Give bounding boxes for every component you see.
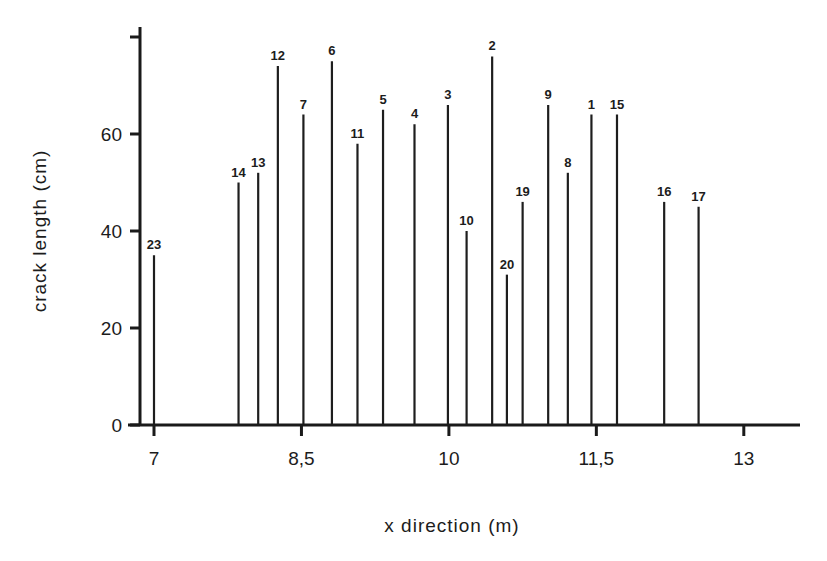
x-tick-label: 7 — [149, 448, 160, 469]
y-axis-title: crack length (cm) — [29, 150, 50, 313]
bars-group: 2314131276115431022019981151617 — [147, 38, 706, 425]
crack-bar-6: 6 — [328, 43, 335, 425]
y-tick-label: 20 — [101, 318, 122, 339]
crack-bar-label: 7 — [300, 97, 307, 112]
crack-bar-label: 2 — [489, 38, 496, 53]
y-tick-label: 60 — [101, 124, 122, 145]
x-tick-label: 10 — [438, 448, 459, 469]
y-tick-label: 0 — [111, 415, 122, 436]
crack-bar-2: 2 — [489, 38, 496, 425]
crack-bar-5: 5 — [379, 92, 386, 425]
y-ticks-group: 0204060 — [101, 37, 140, 436]
crack-bar-14: 14 — [231, 165, 246, 426]
crack-bar-label: 19 — [515, 184, 529, 199]
crack-bar-label: 9 — [545, 87, 552, 102]
y-tick-label: 40 — [101, 221, 122, 242]
crack-bar-label: 17 — [691, 189, 705, 204]
crack-bar-label: 1 — [588, 97, 595, 112]
crack-bar-label: 3 — [444, 87, 451, 102]
crack-bar-1: 1 — [588, 97, 595, 425]
crack-bar-label: 5 — [379, 92, 386, 107]
x-tick-label: 13 — [733, 448, 754, 469]
crack-bar-12: 12 — [271, 48, 285, 425]
crack-bar-11: 11 — [351, 126, 365, 425]
crack-length-chart: 2314131276115431022019981151617 0204060 … — [0, 0, 827, 561]
crack-bar-17: 17 — [691, 189, 705, 425]
crack-bar-label: 12 — [271, 48, 285, 63]
crack-bar-label: 20 — [500, 257, 514, 272]
crack-bar-label: 4 — [411, 106, 419, 121]
crack-bar-label: 23 — [147, 237, 161, 252]
crack-bar-label: 6 — [328, 43, 335, 58]
crack-bar-15: 15 — [610, 97, 624, 425]
crack-bar-9: 9 — [545, 87, 552, 425]
crack-bar-label: 13 — [251, 155, 265, 170]
x-ticks-group: 78,51011,513 — [149, 425, 755, 469]
crack-bar-label: 15 — [610, 97, 624, 112]
crack-bar-8: 8 — [564, 155, 571, 425]
crack-bar-label: 8 — [564, 155, 571, 170]
crack-bar-19: 19 — [515, 184, 529, 425]
crack-bar-7: 7 — [300, 97, 307, 425]
crack-bar-23: 23 — [147, 237, 161, 425]
crack-bar-13: 13 — [251, 155, 265, 425]
crack-bar-3: 3 — [444, 87, 451, 425]
crack-bar-16: 16 — [657, 184, 671, 425]
x-tick-label: 11,5 — [579, 448, 615, 469]
x-axis-title: x direction (m) — [384, 515, 519, 536]
crack-bar-label: 10 — [459, 213, 473, 228]
crack-bar-label: 16 — [657, 184, 671, 199]
crack-bar-label: 11 — [351, 126, 365, 141]
crack-bar-label: 14 — [231, 165, 246, 180]
crack-bar-20: 20 — [500, 257, 514, 425]
crack-bar-4: 4 — [411, 106, 419, 425]
crack-bar-10: 10 — [459, 213, 473, 425]
x-tick-label: 8,5 — [288, 448, 314, 469]
